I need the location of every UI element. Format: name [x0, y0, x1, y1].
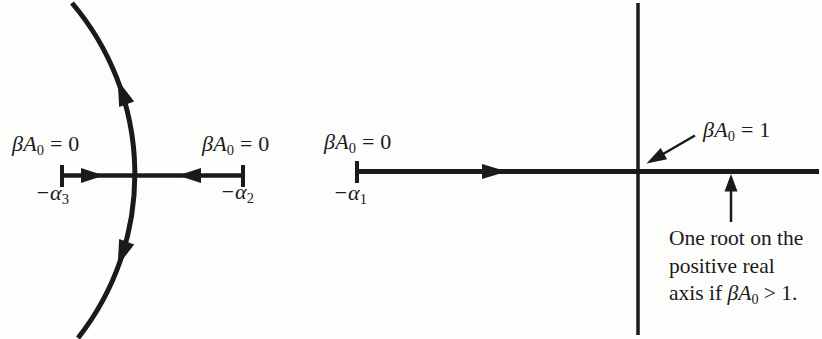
math-subscript: 1	[360, 191, 367, 207]
label-gain-zero-right: βA0 = 0	[202, 132, 269, 156]
label-gain-zero-left: βA0 = 0	[12, 132, 79, 156]
gain-one-arrowhead-icon	[647, 148, 668, 164]
segment-arrowhead-left-icon	[178, 168, 201, 183]
math-beta-a: βA	[703, 117, 728, 142]
annotation-line2: positive real	[669, 253, 803, 281]
arc-arrowhead-down-icon	[118, 239, 135, 266]
math-beta-a: βA	[728, 281, 752, 305]
math-rest: = 0	[356, 129, 391, 154]
math-minus-alpha: −α	[35, 180, 62, 205]
segment-arrowhead-right-icon	[81, 168, 104, 183]
math-minus-alpha: −α	[220, 179, 247, 204]
root-locus-figure: βA0 = 0 βA0 = 0 −α3 −α2 βA0 = 0 −α1 βA0 …	[0, 0, 822, 339]
math-beta-a: βA	[12, 131, 37, 156]
annotation-text: One root on the positive real axis if βA…	[669, 225, 803, 308]
math-subscript: 2	[247, 190, 254, 206]
annotation-arrowhead-up-icon	[725, 174, 738, 192]
math-beta-a: βA	[324, 129, 349, 154]
label-pole-alpha3: −α3	[35, 181, 69, 205]
math-minus-alpha: −α	[333, 180, 360, 205]
label-gain-zero: βA0 = 0	[324, 130, 391, 154]
math-rest: = 0	[234, 131, 269, 156]
annotation-line3-post: > 1.	[758, 281, 797, 305]
label-gain-one: βA0 = 1	[703, 118, 770, 142]
math-beta-a: βA	[202, 131, 227, 156]
annotation-line3-pre: axis if	[669, 281, 728, 305]
math-rest: = 0	[44, 131, 79, 156]
label-pole-alpha2: −α2	[220, 180, 254, 204]
annotation-line3: axis if βA0 > 1.	[669, 280, 803, 308]
math-rest: = 1	[735, 117, 770, 142]
arc-arrowhead-up-icon	[118, 80, 135, 107]
math-subscript: 3	[62, 191, 69, 207]
annotation-line1: One root on the	[669, 225, 803, 253]
axis-arrowhead-right-icon	[482, 164, 507, 179]
label-pole-alpha1: −α1	[333, 181, 367, 205]
